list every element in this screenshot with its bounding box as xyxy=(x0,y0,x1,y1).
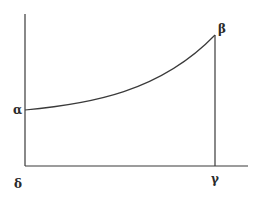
label-alpha: α xyxy=(13,103,22,117)
label-beta: β xyxy=(218,22,226,36)
diagram-canvas: α β γ δ xyxy=(0,0,262,197)
label-gamma: γ xyxy=(211,172,219,186)
curve xyxy=(25,35,215,110)
label-delta: δ xyxy=(14,177,22,191)
